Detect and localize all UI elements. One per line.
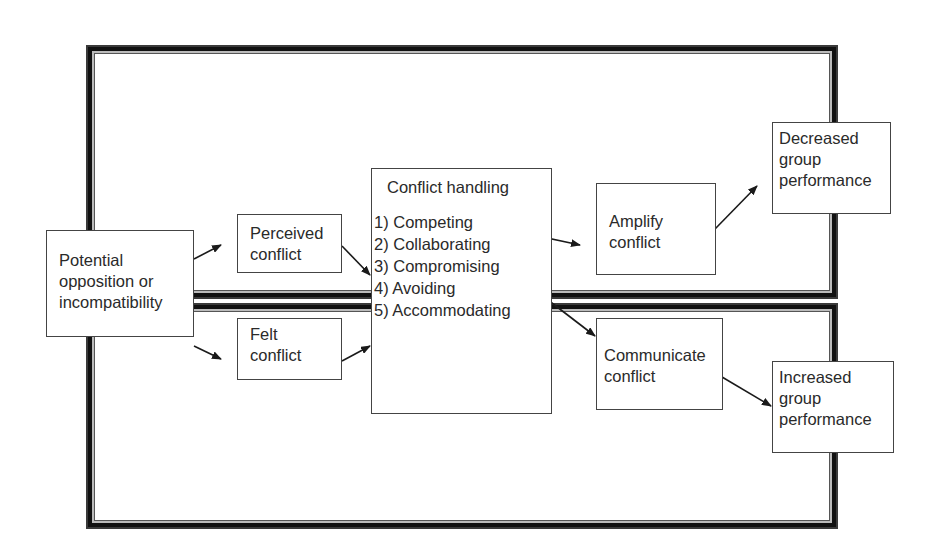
strategy-competing: 1) Competing	[374, 211, 551, 233]
node-text: performance	[779, 409, 893, 430]
node-text: Potential	[59, 250, 193, 271]
node-felt-conflict: Felt conflict	[237, 318, 342, 380]
node-text: Decreased	[779, 128, 890, 149]
node-text: conflict	[604, 366, 722, 387]
strategy-collaborating: 2) Collaborating	[374, 233, 551, 255]
node-text: group	[779, 388, 893, 409]
node-text: opposition or	[59, 271, 193, 292]
strategy-compromising: 3) Compromising	[374, 255, 551, 277]
node-text: conflict	[609, 232, 715, 253]
node-communicate-conflict: Communicate conflict	[596, 318, 723, 410]
strategy-accommodating: 5) Accommodating	[374, 299, 551, 321]
node-text: incompatibility	[59, 292, 193, 313]
node-increased-performance: Increased group performance	[772, 361, 894, 453]
node-text: Perceived	[250, 223, 341, 244]
node-text: Increased	[779, 367, 893, 388]
node-text: Amplify	[609, 211, 715, 232]
node-text: performance	[779, 170, 890, 191]
node-text: Felt	[250, 324, 341, 345]
conflict-handling-title: Conflict handling	[374, 177, 551, 198]
node-text: group	[779, 149, 890, 170]
node-text: Communicate	[604, 345, 722, 366]
node-potential-opposition: Potential opposition or incompatibility	[46, 230, 194, 337]
node-text: conflict	[250, 244, 341, 265]
node-decreased-performance: Decreased group performance	[772, 122, 891, 214]
node-text: conflict	[250, 345, 341, 366]
node-conflict-handling: Conflict handling 1) Competing 2) Collab…	[371, 168, 552, 414]
node-amplify-conflict: Amplify conflict	[596, 183, 716, 275]
strategy-avoiding: 4) Avoiding	[374, 277, 551, 299]
node-perceived-conflict: Perceived conflict	[237, 214, 342, 273]
